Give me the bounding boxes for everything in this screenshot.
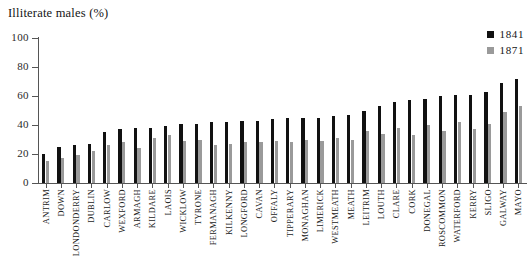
x-label-meath: MEATH [347,189,356,220]
x-label-westmeath: WESTMEATH [331,189,340,244]
bar-1871-tipperary [290,142,293,183]
x-tick-kerry [473,184,474,188]
x-label-kildare: KILDARE [148,189,157,228]
bar-group [454,38,461,183]
bar-1871-meath [351,140,354,184]
x-label-dublin: DUBLIN [87,189,96,223]
bar-1871-monaghan [305,140,308,184]
x-tick-kildare [152,184,153,188]
x-tick-galway [503,184,504,188]
x-axis-line [38,183,527,184]
bar-group [118,38,125,183]
bar-1871-louth [381,134,384,183]
bar-1871-cork [412,135,415,183]
bar-1871-armagh [137,148,140,183]
x-tick-mayo [518,184,519,188]
x-tick-wicklow [183,184,184,188]
x-label-mayo: MAYO [514,189,523,215]
bar-group [164,38,171,183]
x-tick-carlow [107,184,108,188]
x-label-waterford: WATERFORD [453,189,462,242]
x-label-monaghan: MONAGHAN [301,189,310,242]
x-label-antrim: ANTRIM [42,189,51,224]
x-label-down: DOWN [57,189,66,216]
bar-group [439,38,446,183]
x-label-sligo: SLIGO [484,189,493,215]
bar-1871-wicklow [183,141,186,183]
bar-group [271,38,278,183]
bar-1871-roscommon [442,131,445,183]
bar-1871-waterford [458,122,461,183]
y-tick-0 [32,183,38,184]
x-tick-donegal [427,184,428,188]
x-tick-limerick [320,184,321,188]
x-label-louth: LOUTH [377,189,386,219]
x-tick-antrim [46,184,47,188]
x-tick-meath [351,184,352,188]
bar-group [301,38,308,183]
bar-1871-galway [503,112,506,183]
bar-group [484,38,491,183]
x-tick-waterford [457,184,458,188]
bar-group [73,38,80,183]
x-label-wicklow: WICKLOW [179,189,188,233]
bar-group [500,38,507,183]
y-tick-label-0: 0 [0,176,29,188]
bar-group [42,38,49,183]
bar-group [103,38,110,183]
x-label-donegal: DONEGAL [423,189,432,232]
bar-1871-down [61,158,64,183]
bar-group [378,38,385,183]
bar-1871-westmeath [336,138,339,183]
bar-1871-donegal [427,125,430,183]
x-tick-cavan [259,184,260,188]
x-label-offaly: OFFALY [270,189,279,222]
x-label-cavan: CAVAN [255,189,264,218]
illiterate-males-bar-chart: Illiterate males (%) 1841 1871 020406080… [0,0,532,279]
bar-1871-offaly [275,141,278,183]
x-tick-monaghan [305,184,306,188]
x-tick-clare [396,184,397,188]
x-tick-laois [168,184,169,188]
bar-1871-wexford [122,142,125,183]
x-tick-tyrone [198,184,199,188]
bar-group [256,38,263,183]
x-label-laois: LAOIS [164,189,173,215]
x-label-fermanagh: FERMANAGH [209,189,218,245]
bar-group [469,38,476,183]
x-label-tyrone: TYRONE [194,189,203,225]
bar-group [240,38,247,183]
x-label-galway: GALWAY [499,189,508,226]
bar-1871-fermanagh [214,145,217,183]
bar-group [179,38,186,183]
bar-group [134,38,141,183]
bar-1871-limerick [320,141,323,183]
bar-1871-sligo [488,124,491,183]
bar-1871-leitrim [366,131,369,183]
bar-1871-carlow [107,145,110,183]
chart-title: Illiterate males (%) [8,6,108,21]
x-label-londonderry: LONDONDERRY [72,189,81,256]
bar-group [408,38,415,183]
x-tick-offaly [274,184,275,188]
bar-group [317,38,324,183]
x-tick-sligo [488,184,489,188]
x-tick-wexford [122,184,123,188]
x-label-wexford: WEXFORD [118,189,127,233]
y-tick-label-80: 80 [0,60,29,72]
x-tick-tipperary [290,184,291,188]
bar-group [332,38,339,183]
bar-group [347,38,354,183]
y-tick-label-100: 100 [0,31,29,43]
x-label-kerry: KERRY [469,189,478,219]
x-label-clare: CLARE [392,189,401,218]
y-tick-label-40: 40 [0,118,29,130]
bar-1871-kerry [473,129,476,183]
bar-group [149,38,156,183]
bar-1871-mayo [519,106,522,183]
x-label-leitrim: LEITRIM [362,189,371,225]
bar-1871-laois [168,135,171,183]
bar-group [57,38,64,183]
bar-1871-kildare [153,138,156,183]
y-tick-label-60: 60 [0,89,29,101]
